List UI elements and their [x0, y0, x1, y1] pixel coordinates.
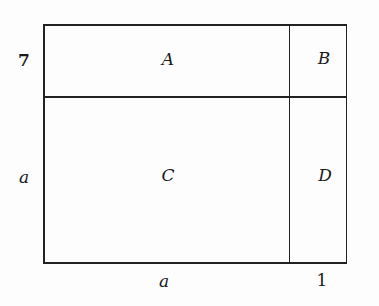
- left-label-top: 7: [18, 52, 30, 69]
- outer-top-edge: [43, 24, 347, 26]
- left-label-bottom: a: [19, 169, 29, 186]
- horizontal-divider: [43, 96, 347, 98]
- outer-bottom-edge: [43, 262, 347, 264]
- region-label-c: C: [161, 167, 174, 184]
- region-label-b: B: [318, 50, 331, 67]
- region-label-d: D: [318, 167, 332, 184]
- region-label-a: A: [162, 51, 174, 68]
- vertical-divider: [289, 24, 291, 263]
- outer-right-edge: [346, 24, 348, 263]
- outer-left-edge: [43, 24, 45, 263]
- bottom-label-right: 1: [317, 272, 328, 289]
- bottom-label-left: a: [159, 273, 169, 290]
